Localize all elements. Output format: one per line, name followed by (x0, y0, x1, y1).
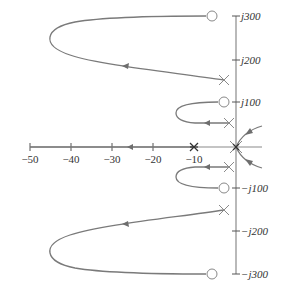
locus-origin-up (236, 126, 262, 147)
y-tick-label: −j200 (241, 225, 268, 237)
x-tick-label: −50 (21, 153, 39, 165)
x-tick-labels: −50 −40 −30 −20 −10 (21, 153, 203, 165)
y-tick-label: −j100 (241, 182, 268, 194)
locus-origin-down (236, 147, 262, 168)
x-tick-label: −20 (144, 153, 162, 165)
arrow-icon (127, 144, 133, 150)
y-tick-label: j100 (239, 96, 261, 108)
zero-marker (207, 269, 217, 279)
zero-marker (219, 97, 229, 107)
root-locus-plot: −50 −40 −30 −20 −10 j300 j200 j100 −j100… (0, 0, 285, 290)
pole-marker-minus10 (190, 143, 198, 151)
locus-lower-outer (50, 210, 224, 274)
y-tick-labels: j300 j200 j100 −j100 −j200 −j300 (239, 10, 268, 280)
x-tick-label: −30 (103, 153, 121, 165)
x-tick-label: −40 (62, 153, 80, 165)
x-tick-label: −10 (185, 153, 203, 165)
locus-upper-outer (50, 16, 224, 80)
y-tick-label: j300 (239, 10, 261, 22)
arrow-icon (245, 159, 253, 166)
zero-marker (219, 183, 229, 193)
zero-marker (207, 11, 217, 21)
arrow-icon (204, 120, 210, 126)
arrow-icon (122, 221, 129, 227)
arrow-icon (122, 63, 129, 69)
arrow-icon (245, 128, 253, 135)
y-tick-label: j200 (239, 54, 261, 66)
arrow-icon (204, 164, 210, 170)
y-tick-label: −j300 (241, 268, 268, 280)
